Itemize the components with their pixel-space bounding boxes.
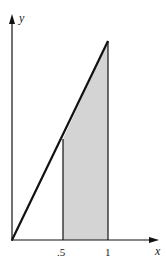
y-axis-arrow-icon xyxy=(9,14,15,24)
shaded-region xyxy=(63,41,108,240)
x-axis-label: x xyxy=(154,244,161,258)
figure-canvas: y x .5 1 xyxy=(0,0,166,265)
x-axis-arrow-icon xyxy=(149,237,159,243)
y-axis-label: y xyxy=(18,11,25,25)
tick-label-one: 1 xyxy=(105,246,111,258)
tick-label-half: .5 xyxy=(57,246,66,258)
